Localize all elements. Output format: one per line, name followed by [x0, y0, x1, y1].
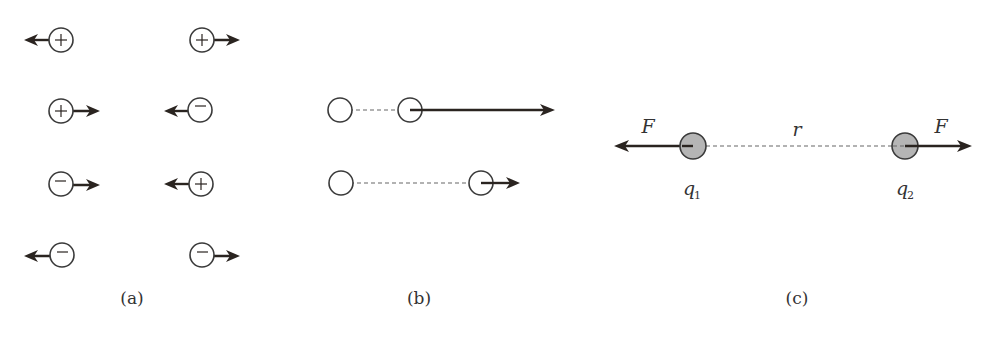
svg-text:1: 1	[694, 189, 701, 202]
panel-c-caption: (c)	[786, 288, 809, 308]
pair-long-separation	[329, 171, 520, 195]
charge-row3-right	[164, 172, 213, 196]
force-label-left: F	[640, 115, 655, 137]
charge-row4-left	[24, 243, 74, 267]
charge-row3-left	[49, 172, 100, 196]
charge-row1-left	[24, 28, 73, 52]
charge-q1	[614, 133, 706, 159]
charge-row4-right	[190, 243, 240, 267]
pair-short-separation	[328, 98, 555, 122]
charge-row2-right	[164, 98, 212, 122]
panel-a: (a)	[24, 28, 240, 308]
panel-c: F F r q 1 q 2 (c)	[614, 115, 972, 308]
svg-text:2: 2	[907, 189, 914, 202]
charge-q1-label: q 1	[683, 177, 701, 202]
panel-a-caption: (a)	[120, 288, 143, 308]
distance-label: r	[792, 118, 803, 140]
panel-b-caption: (b)	[407, 288, 431, 308]
charge-q2	[892, 133, 972, 159]
charge-q2-label: q 2	[896, 177, 914, 202]
coulomb-force-figure: (a) (b)	[0, 0, 994, 341]
charge-row1-right	[190, 28, 240, 52]
charge-row2-left	[49, 99, 100, 123]
force-label-right: F	[933, 115, 948, 137]
